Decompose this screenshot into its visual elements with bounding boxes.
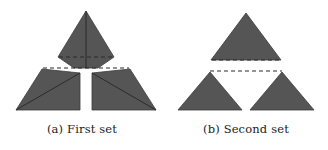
piece-top-b [211, 13, 281, 60]
caption-second-set: (b) Second set [164, 122, 328, 136]
figure-root: (a) First set (b) Second set [0, 0, 328, 150]
first-set-diagram [0, 0, 164, 122]
second-set-diagram [164, 0, 328, 122]
piece-bottom-left-a [16, 69, 80, 110]
piece-bottom-right-a [92, 69, 156, 110]
caption-first-set: (a) First set [0, 122, 164, 136]
piece-bottom-right-b [250, 72, 314, 110]
subfigure-second-set: (b) Second set [164, 0, 328, 150]
piece-bottom-left-b [178, 72, 242, 110]
subfigure-first-set: (a) First set [0, 0, 164, 150]
